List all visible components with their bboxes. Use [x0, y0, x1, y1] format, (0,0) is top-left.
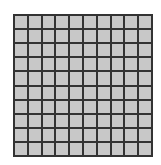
grid-cell: [112, 115, 124, 127]
grid-cell: [98, 58, 110, 70]
grid-cell: [15, 115, 27, 127]
grid-cell: [43, 143, 55, 155]
grid-cell: [70, 101, 82, 113]
grid-cell: [43, 44, 55, 56]
grid-cell: [125, 72, 137, 84]
grid-cell: [70, 129, 82, 141]
grid-cell: [98, 87, 110, 99]
grid-cell: [84, 58, 96, 70]
grid-cell: [15, 129, 27, 141]
grid-cell: [56, 44, 68, 56]
grid-cell: [84, 115, 96, 127]
grid-cell: [29, 115, 41, 127]
grid-cell: [15, 143, 27, 155]
grid-cell: [56, 143, 68, 155]
grid-cell: [56, 30, 68, 42]
grid-cell: [43, 115, 55, 127]
grid-cell: [70, 115, 82, 127]
grid-cell: [29, 72, 41, 84]
grid-cell: [112, 72, 124, 84]
grid-cell: [125, 101, 137, 113]
grid-cell: [125, 129, 137, 141]
grid-cell: [125, 30, 137, 42]
grid-cell: [56, 101, 68, 113]
grid-cell: [15, 101, 27, 113]
grid-cell: [98, 30, 110, 42]
grid: [13, 14, 153, 157]
grid-cell: [98, 16, 110, 28]
grid-cell: [84, 87, 96, 99]
grid-cell: [112, 58, 124, 70]
grid-cell: [15, 72, 27, 84]
grid-cell: [43, 129, 55, 141]
grid-cell: [29, 44, 41, 56]
grid-cell: [56, 72, 68, 84]
grid-cell: [70, 143, 82, 155]
grid-cell: [84, 101, 96, 113]
grid-cell: [139, 30, 151, 42]
grid-cell: [98, 72, 110, 84]
grid-cell: [125, 44, 137, 56]
grid-cell: [139, 115, 151, 127]
grid-cell: [112, 30, 124, 42]
grid-cell: [29, 87, 41, 99]
grid-cell: [56, 58, 68, 70]
grid-cell: [70, 72, 82, 84]
grid-cell: [15, 58, 27, 70]
grid-cell: [98, 129, 110, 141]
grid-cell: [15, 30, 27, 42]
grid-cell: [70, 44, 82, 56]
grid-cell: [84, 30, 96, 42]
grid-cell: [84, 143, 96, 155]
grid-cell: [125, 115, 137, 127]
grid-cell: [70, 16, 82, 28]
grid-cell: [139, 143, 151, 155]
grid-cell: [70, 30, 82, 42]
grid-cell: [84, 72, 96, 84]
grid-cell: [56, 129, 68, 141]
grid-cell: [98, 44, 110, 56]
grid-cell: [139, 44, 151, 56]
grid-cell: [139, 101, 151, 113]
grid-cell: [29, 16, 41, 28]
grid-cell: [139, 129, 151, 141]
grid-cell: [98, 101, 110, 113]
grid-cell: [139, 58, 151, 70]
grid-cell: [112, 129, 124, 141]
grid-cell: [29, 101, 41, 113]
grid-cell: [84, 129, 96, 141]
grid-cell: [43, 30, 55, 42]
grid-cell: [29, 58, 41, 70]
grid-cell: [29, 143, 41, 155]
grid-cell: [112, 87, 124, 99]
grid-cell: [29, 30, 41, 42]
grid-cell: [125, 87, 137, 99]
grid-cell: [139, 72, 151, 84]
grid-cell: [125, 16, 137, 28]
grid-cell: [84, 44, 96, 56]
grid-cell: [112, 101, 124, 113]
grid-cell: [112, 16, 124, 28]
grid-cell: [56, 87, 68, 99]
grid-cell: [98, 143, 110, 155]
grid-cell: [43, 58, 55, 70]
grid-cell: [125, 143, 137, 155]
grid-cell: [43, 16, 55, 28]
grid-cell: [125, 58, 137, 70]
grid-cell: [15, 16, 27, 28]
grid-cell: [43, 72, 55, 84]
grid-cell: [43, 87, 55, 99]
grid-cell: [29, 129, 41, 141]
grid-cell: [112, 143, 124, 155]
grid-cell: [70, 58, 82, 70]
grid-cell: [139, 16, 151, 28]
grid-cell: [56, 16, 68, 28]
grid-cell: [98, 115, 110, 127]
grid-cell: [112, 44, 124, 56]
grid-cell: [43, 101, 55, 113]
grid-cell: [84, 16, 96, 28]
grid-cell: [15, 87, 27, 99]
grid-cell: [70, 87, 82, 99]
grid-cell: [56, 115, 68, 127]
grid-cell: [139, 87, 151, 99]
